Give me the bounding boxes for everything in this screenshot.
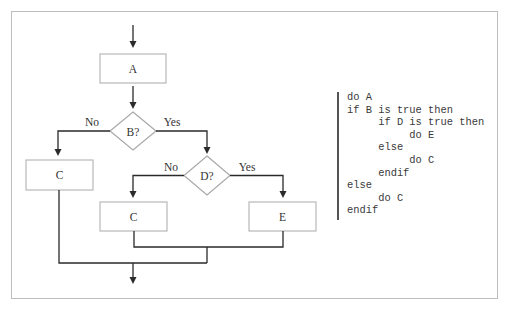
decision-d-label: D? bbox=[200, 170, 213, 182]
pseudocode-bar bbox=[337, 92, 339, 220]
code-line: endif bbox=[347, 204, 484, 217]
process-box-c-mid-label: C bbox=[130, 211, 138, 223]
decision-b-label: B? bbox=[127, 126, 140, 138]
arrow-a-to-b bbox=[130, 86, 137, 109]
branch-b-yes: Yes bbox=[156, 116, 211, 154]
code-line: do E bbox=[347, 129, 484, 142]
process-box-c-left: C bbox=[26, 160, 93, 190]
process-box-a-label: A bbox=[129, 63, 138, 75]
code-line: else bbox=[347, 179, 484, 192]
branch-b-no: No bbox=[55, 116, 111, 156]
code-line: do C bbox=[347, 154, 484, 167]
code-line: do A bbox=[347, 91, 484, 104]
pseudocode-block: do Aif B is true then if D is true then … bbox=[347, 91, 484, 217]
entry-arrow bbox=[130, 25, 137, 48]
decision-diamond-b: B? bbox=[110, 112, 156, 150]
decision-diamond-d: D? bbox=[184, 156, 230, 195]
code-line: endif bbox=[347, 167, 484, 180]
exit-arrow bbox=[130, 263, 137, 284]
merge-inner bbox=[134, 231, 283, 263]
process-box-c-left-label: C bbox=[56, 169, 64, 181]
process-box-e: E bbox=[249, 202, 316, 231]
code-line: if B is true then bbox=[347, 104, 484, 117]
branch-d-no: No bbox=[130, 161, 185, 198]
branch-d-yes: Yes bbox=[230, 161, 287, 198]
code-line: do C bbox=[347, 192, 484, 205]
process-box-e-label: E bbox=[279, 211, 286, 223]
b-no-label: No bbox=[85, 116, 99, 128]
code-line: else bbox=[347, 141, 484, 154]
d-no-label: No bbox=[164, 161, 178, 173]
b-yes-label: Yes bbox=[164, 116, 181, 128]
process-box-a: A bbox=[100, 54, 166, 83]
d-yes-label: Yes bbox=[239, 161, 256, 173]
code-line: if D is true then bbox=[347, 116, 484, 129]
process-box-c-mid: C bbox=[100, 202, 167, 231]
